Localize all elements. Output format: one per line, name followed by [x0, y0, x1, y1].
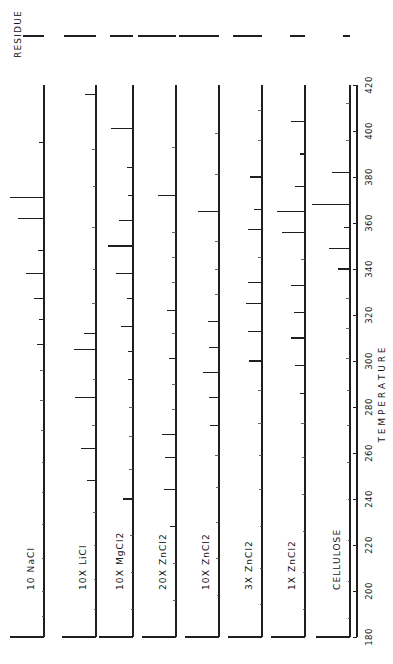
axis-tick-label: 180 [364, 628, 374, 645]
axis-tick-label: 240 [364, 490, 374, 507]
axis-tick-label: 200 [364, 582, 374, 599]
thermal-analysis-figure: RESIDUE 10 NaCl10X LiCl10X MgCl220X ZnCl… [0, 0, 393, 664]
trace-label: 10X ZnCl2 [201, 533, 211, 590]
residue-axis-label: RESIDUE [13, 10, 23, 58]
axis-tick-label: 400 [364, 122, 374, 139]
trace-label: 3X ZnCl2 [244, 540, 254, 590]
trace-label: 20X ZnCl2 [158, 533, 168, 590]
axis-tick-label: 340 [364, 260, 374, 277]
axis-tick-label: 420 [364, 76, 374, 93]
trace-collection: 10 NaCl10X LiCl10X MgCl220X ZnCl210X ZnC… [10, 85, 350, 637]
trace-label: 1X ZnCl2 [287, 540, 297, 590]
trace-label: 10 NaCl [26, 547, 36, 590]
trace-label: 10X MgCl2 [115, 532, 125, 590]
trace-20x-zncl2[interactable]: 20X ZnCl2 [142, 85, 176, 637]
axis-tick-label: 380 [364, 168, 374, 185]
trace-10x-licl[interactable]: 10X LiCl [62, 85, 96, 637]
trace-3x-zncl2[interactable]: 3X ZnCl2 [228, 85, 262, 637]
trace-cellulose[interactable]: CELLULOSE [312, 85, 350, 637]
axis-tick-label: 320 [364, 306, 374, 323]
plot-canvas: RESIDUE 10 NaCl10X LiCl10X MgCl220X ZnCl… [0, 0, 393, 664]
trace-10x-zncl2[interactable]: 10X ZnCl2 [185, 85, 219, 637]
axis-title: T E M P E R A T U R E [377, 347, 387, 443]
axis-tick-label: 360 [364, 214, 374, 231]
axis-tick-label: 300 [364, 352, 374, 369]
temperature-axis: 180200220240260280300320340360380400420 [353, 76, 374, 645]
trace-10x-mgcl2[interactable]: 10X MgCl2 [99, 85, 133, 637]
trace-label: 10X LiCl [78, 544, 88, 590]
axis-tick-label: 260 [364, 444, 374, 461]
axis-tick-label: 280 [364, 398, 374, 415]
trace-10-nacl[interactable]: 10 NaCl [10, 85, 44, 637]
axis-tick-label: 220 [364, 536, 374, 553]
trace-label: CELLULOSE [332, 529, 342, 590]
trace-1x-zncl2[interactable]: 1X ZnCl2 [271, 85, 305, 637]
